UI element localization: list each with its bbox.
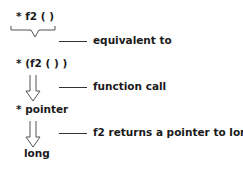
annotation-equivalent-to: equivalent to: [93, 34, 172, 46]
annotation-returns-pointer: f2 returns a pointer to long: [93, 126, 243, 138]
down-arrow-icon: [25, 120, 41, 148]
down-arrow-icon: [25, 74, 41, 102]
connector-line: [59, 133, 87, 134]
expression-parenthesized-call: * (f2 ( ) ): [16, 57, 67, 69]
expression-f2-call: * f2 ( ): [16, 10, 54, 22]
expression-long: long: [24, 147, 50, 159]
connector-line: [59, 41, 87, 42]
brace-icon: [10, 25, 56, 39]
annotation-function-call: function call: [93, 80, 166, 92]
expression-pointer: * pointer: [16, 103, 68, 115]
connector-line: [59, 87, 87, 88]
